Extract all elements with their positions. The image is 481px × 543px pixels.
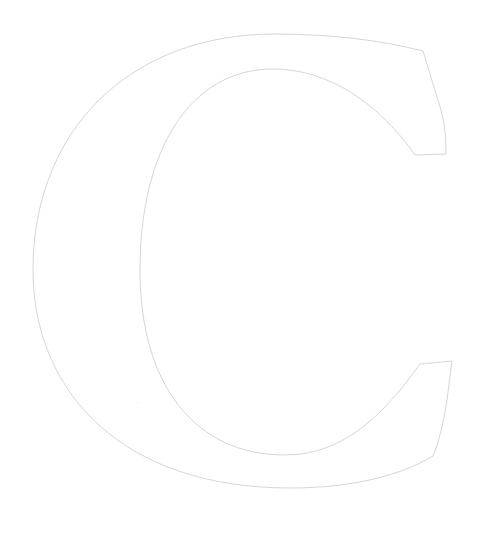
letter-c-glyph xyxy=(0,0,481,543)
letter-c-outline xyxy=(0,0,481,543)
letter-c-path xyxy=(33,34,452,488)
speck-artifact xyxy=(137,402,138,403)
